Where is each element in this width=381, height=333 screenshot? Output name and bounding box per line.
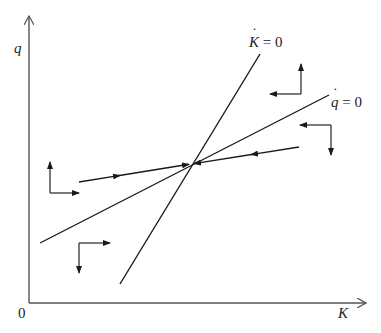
k-dot-zero-label: K = 0 <box>249 34 282 51</box>
arrow-pair-lower-left <box>79 243 110 273</box>
saddle-left-segment-1 <box>79 175 120 182</box>
y-axis-label: q <box>14 40 22 57</box>
saddle-right-segment-1 <box>251 147 299 155</box>
arrow-pair-left <box>50 162 79 193</box>
origin-label: 0 <box>18 305 26 322</box>
x-axis-label: K <box>338 305 348 322</box>
k-dot-symbol: K <box>249 34 259 51</box>
phase-diagram <box>0 0 381 333</box>
q-dot-equals: = 0 <box>339 94 362 110</box>
saddle-left-segment-2 <box>118 164 189 175</box>
q-dot-zero-line <box>40 95 329 243</box>
q-dot-zero-label: q = 0 <box>331 94 362 111</box>
q-dot-symbol: q <box>331 94 339 111</box>
arrow-pair-upper-right <box>270 64 301 94</box>
saddle-path <box>79 147 299 182</box>
k-dot-zero-line <box>120 54 260 284</box>
k-dot-equals: = 0 <box>259 34 282 50</box>
arrow-pair-right <box>300 125 331 155</box>
